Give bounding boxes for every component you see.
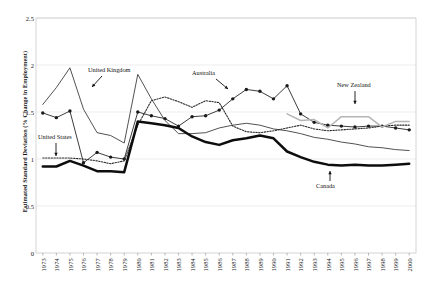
x-tick-label-1978: 1978 [107,258,114,272]
series-marker [340,124,343,127]
x-tick-label-1980: 1980 [135,258,142,272]
annotation-australia: Australia [192,69,215,76]
series-line-new-zealand [287,114,409,128]
x-tick-label-1997: 1997 [365,258,372,272]
series-marker [245,88,248,91]
series-marker [285,84,288,87]
x-tick-label-1973: 1973 [40,258,47,272]
series-marker [299,112,302,115]
x-tick-label-1993: 1993 [311,258,318,272]
annotation-arrowhead [54,153,57,156]
series-marker [68,109,71,112]
series-marker [204,114,207,117]
annotation-canada: Canada [316,182,335,189]
series-marker [408,128,411,131]
x-tick-label-1996: 1996 [352,258,359,272]
x-tick-label-1987: 1987 [230,258,237,272]
series-marker [136,110,139,113]
series-marker [353,125,356,128]
x-tick-label-1974: 1974 [53,258,60,272]
series-marker [95,151,98,154]
x-tick-label-1999: 1999 [392,258,399,272]
x-tick-label-1976: 1976 [80,258,87,272]
x-tick-label-1994: 1994 [325,258,332,272]
x-tick-label-1975: 1975 [67,258,74,272]
x-tick-label-1998: 1998 [379,258,386,272]
series-marker [150,114,153,117]
x-tick-label-1983: 1983 [175,258,182,272]
x-tick-label-1979: 1979 [121,258,128,272]
chart-figure: Estimated Standard Deviation (% Change i… [0,0,440,301]
x-tick-label-1986: 1986 [216,258,223,272]
x-tick-label-1977: 1977 [94,258,101,272]
annotation-united-kingdom: United Kingdom [88,66,131,73]
x-tick-label-1982: 1982 [162,258,169,272]
plot-area [0,0,440,301]
x-tick-label-1981: 1981 [148,258,155,272]
series-marker [313,121,316,124]
series-marker [394,126,397,129]
series-marker [218,108,221,111]
annotation-new-zealand: New Zealand [337,81,371,88]
series-marker [41,111,44,114]
x-tick-label-1991: 1991 [284,258,291,272]
x-tick-label-1988: 1988 [243,258,250,272]
x-tick-label-1995: 1995 [338,258,345,272]
x-tick-label-2000: 2000 [406,258,413,272]
annotation-united-states: United States [38,133,72,140]
series-marker [109,155,112,158]
annotation-arrowhead [328,171,331,174]
series-marker [190,115,193,118]
series-marker [258,90,261,93]
series-marker [55,116,58,119]
x-tick-label-1992: 1992 [297,258,304,272]
series-marker [272,97,275,100]
series-marker [231,97,234,100]
x-tick-label-1985: 1985 [202,258,209,272]
x-tick-label-1984: 1984 [189,258,196,272]
x-tick-label-1990: 1990 [270,258,277,272]
annotation-arrowhead [353,101,356,104]
x-tick-label-1989: 1989 [257,258,264,272]
